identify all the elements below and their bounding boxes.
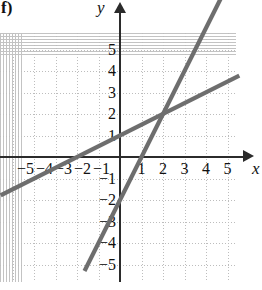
plot-line-shallow-line: [1, 76, 240, 196]
graph-figure: f) y x 54321−1−2−3−4−5−5−4−3−2−112345: [0, 0, 262, 290]
plot-line-steep-line: [85, 0, 230, 271]
plotted-lines: [0, 0, 262, 290]
